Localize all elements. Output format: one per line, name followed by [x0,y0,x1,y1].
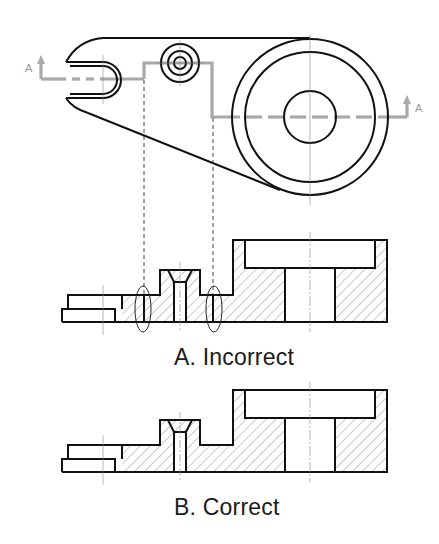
technical-drawing: A A [0,0,439,544]
section-b-hatch [122,390,387,472]
part-outline [66,38,310,190]
caption-correct: B. Correct [174,494,280,521]
section-label-left: A [25,62,33,74]
section-label-right: A [415,102,423,114]
caption-incorrect: A. Incorrect [174,344,294,371]
section-arrow-left-icon [37,55,45,64]
section-b-correct [62,382,387,485]
section-arrow-right-icon [403,95,411,104]
section-a-hatch [122,240,387,322]
cutting-plane-line [41,62,407,117]
section-a-incorrect [62,232,387,335]
